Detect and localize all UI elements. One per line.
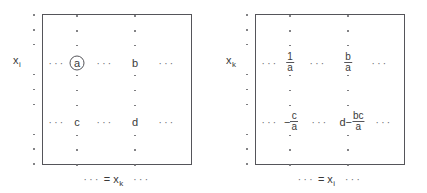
col-ellipsis-left: ··· bbox=[84, 174, 101, 185]
matrix-cell-one-over-a: 1a bbox=[286, 52, 294, 74]
row-label-base: x bbox=[13, 54, 19, 66]
dot bbox=[134, 30, 136, 32]
fraction-one-over-a: 1a bbox=[286, 52, 294, 74]
dot bbox=[347, 75, 349, 77]
dot bbox=[134, 135, 136, 137]
dot bbox=[289, 164, 291, 166]
col-label-subscript: i bbox=[333, 179, 335, 188]
row2-ellipsis-left: ··· bbox=[48, 117, 65, 128]
row-label-subscript: i bbox=[19, 60, 21, 69]
dot bbox=[76, 15, 78, 17]
row-ellipsis-left: ··· bbox=[261, 58, 278, 69]
col-label-base: x bbox=[113, 173, 119, 185]
fraction-denominator: a bbox=[286, 62, 294, 74]
row-label-before: xi bbox=[13, 54, 21, 69]
matrix-cell-d: d bbox=[132, 116, 138, 128]
fraction-denominator: a bbox=[290, 121, 298, 133]
col-ellipsis-left: ··· bbox=[298, 174, 315, 185]
dot bbox=[33, 148, 35, 150]
fraction-numerator: bc bbox=[352, 111, 365, 122]
fraction-numerator: c bbox=[290, 111, 298, 122]
matrix-cell-d-minus-bc-over-a: d−bca bbox=[339, 111, 364, 133]
col-label-base: x bbox=[327, 173, 333, 185]
dot bbox=[134, 164, 136, 166]
dot bbox=[134, 45, 136, 47]
dot bbox=[246, 134, 248, 136]
inner-dot-column-1 bbox=[73, 15, 81, 166]
dot bbox=[76, 105, 78, 107]
dot bbox=[76, 75, 78, 77]
dot bbox=[33, 104, 35, 106]
row-ellipsis-left: ··· bbox=[48, 58, 65, 69]
row2-ellipsis-right: ··· bbox=[375, 117, 392, 128]
dot bbox=[76, 135, 78, 137]
row-label-base: x bbox=[226, 54, 232, 66]
dot bbox=[246, 148, 248, 150]
inner-dot-column-1 bbox=[286, 15, 294, 166]
dot bbox=[347, 164, 349, 166]
dot bbox=[347, 30, 349, 32]
dot bbox=[134, 15, 136, 17]
dot bbox=[33, 14, 35, 16]
fraction-c-over-a: ca bbox=[290, 111, 298, 133]
dot bbox=[76, 90, 78, 92]
matrix-panel-before: xi bbox=[0, 0, 213, 193]
column-label-before: ···=xk··· bbox=[42, 173, 192, 188]
dot bbox=[246, 104, 248, 106]
leading-operator: d− bbox=[339, 116, 352, 128]
col-ellipsis-right: ··· bbox=[345, 174, 362, 185]
dot bbox=[347, 45, 349, 47]
dot bbox=[33, 134, 35, 136]
row-ellipsis-right: ··· bbox=[371, 58, 388, 69]
dot bbox=[246, 44, 248, 46]
dot bbox=[289, 135, 291, 137]
dot bbox=[289, 90, 291, 92]
dot bbox=[76, 149, 78, 151]
figure-canvas: xi bbox=[0, 0, 427, 193]
row-ellipsis-mid: ··· bbox=[309, 58, 326, 69]
dot bbox=[289, 45, 291, 47]
dot bbox=[347, 105, 349, 107]
dot bbox=[246, 89, 248, 91]
col-label-subscript: k bbox=[119, 179, 123, 188]
fraction-denominator: a bbox=[352, 121, 365, 133]
matrix-cell-pivot-a: a bbox=[74, 57, 80, 69]
inner-dot-column-2 bbox=[344, 15, 352, 166]
fraction-b-over-a: ba bbox=[344, 52, 352, 74]
matrix-panel-after: xk bbox=[213, 0, 426, 193]
col-equals: = bbox=[318, 173, 324, 185]
dot bbox=[246, 163, 248, 165]
dot bbox=[33, 163, 35, 165]
matrix-frame-before: ··· a ··· b ··· ··· c ··· d ··· bbox=[42, 14, 192, 165]
dot bbox=[289, 75, 291, 77]
row-dot-column-after bbox=[243, 14, 251, 165]
column-label-after: ···=xi··· bbox=[255, 173, 405, 188]
dot bbox=[134, 90, 136, 92]
matrix-cell-neg-c-over-a: −ca bbox=[284, 111, 298, 133]
row2-ellipsis-left: ··· bbox=[261, 117, 278, 128]
dot bbox=[289, 149, 291, 151]
dot bbox=[33, 74, 35, 76]
fraction-denominator: a bbox=[344, 62, 352, 74]
row2-ellipsis-mid: ··· bbox=[311, 117, 328, 128]
dot bbox=[33, 89, 35, 91]
row-label-after: xk bbox=[226, 54, 236, 69]
dot bbox=[246, 29, 248, 31]
dot bbox=[134, 105, 136, 107]
matrix-cell-c: c bbox=[74, 116, 80, 128]
dot bbox=[134, 75, 136, 77]
matrix-cell-b: b bbox=[132, 57, 138, 69]
row-ellipsis-mid: ··· bbox=[96, 58, 113, 69]
dot bbox=[289, 15, 291, 17]
row2-ellipsis-mid: ··· bbox=[96, 117, 113, 128]
inner-dot-column-2 bbox=[131, 15, 139, 166]
dot bbox=[246, 14, 248, 16]
dot bbox=[134, 149, 136, 151]
row2-ellipsis-right: ··· bbox=[158, 117, 175, 128]
dot bbox=[347, 15, 349, 17]
col-ellipsis-right: ··· bbox=[133, 174, 150, 185]
fraction-numerator: 1 bbox=[286, 52, 294, 63]
dot bbox=[289, 30, 291, 32]
dot bbox=[76, 164, 78, 166]
dot bbox=[246, 74, 248, 76]
